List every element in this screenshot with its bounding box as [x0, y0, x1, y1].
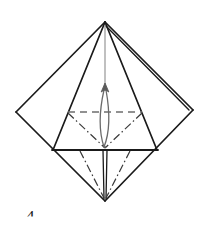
origami-diagram-svg [0, 0, 210, 228]
origami-figure: 4 [0, 0, 210, 228]
